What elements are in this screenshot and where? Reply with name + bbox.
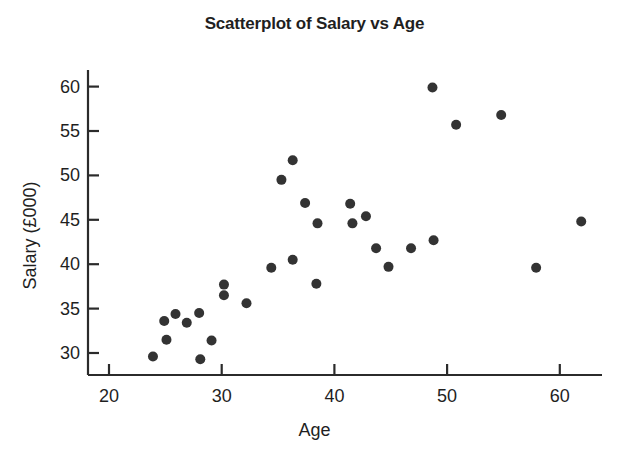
x-axis-label: Age [0,420,629,441]
data-point [429,235,439,245]
x-tick-label-60: 60 [550,386,570,406]
data-point [313,218,323,228]
data-point [347,218,357,228]
data-point [300,198,310,208]
y-tick-label-60: 60 [60,77,80,97]
data-point [207,336,217,346]
y-tick-label-30: 30 [60,343,80,363]
data-point [371,243,381,253]
x-tick-label-40: 40 [324,386,344,406]
data-point-group [148,82,586,364]
data-point [182,318,192,328]
y-tick-label-45: 45 [60,210,80,230]
data-point [288,155,298,165]
x-tick-label-50: 50 [437,386,457,406]
scatterplot-figure: Scatterplot of Salary vs Age 30354045505… [0,0,629,471]
x-axis-ticks [109,364,560,375]
y-tick-label-50: 50 [60,165,80,185]
data-point [241,298,251,308]
x-tick-label-20: 20 [99,386,119,406]
data-point [427,82,437,92]
data-point [496,110,506,120]
y-axis-ticks [88,87,99,353]
axis-lines [88,70,602,375]
data-point [311,279,321,289]
y-tick-label-35: 35 [60,299,80,319]
data-point [219,280,229,290]
y-axis-label: Salary (£000) [20,136,41,336]
plot-area: 30354045505560 2030405060 [0,0,629,471]
data-point [361,211,371,221]
data-point [148,352,158,362]
data-point [531,263,541,273]
data-point [266,263,276,273]
data-point [159,316,169,326]
data-point [161,335,171,345]
data-point [406,243,416,253]
data-point [345,199,355,209]
data-point [276,175,286,185]
data-point [288,255,298,265]
data-point [170,309,180,319]
y-tick-label-40: 40 [60,254,80,274]
data-point [194,308,204,318]
x-axis-tick-labels: 2030405060 [99,386,570,406]
data-point [195,354,205,364]
y-axis-tick-labels: 30354045505560 [60,77,80,363]
data-point [219,290,229,300]
data-point [576,217,586,227]
y-tick-label-55: 55 [60,121,80,141]
data-point [384,262,394,272]
x-tick-label-30: 30 [212,386,232,406]
data-point [451,120,461,130]
